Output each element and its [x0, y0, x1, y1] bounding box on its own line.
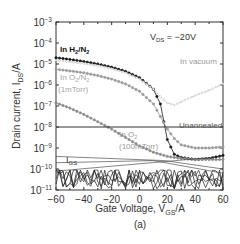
- data-point: [90, 73, 92, 75]
- data-point: [149, 86, 151, 88]
- data-point: [177, 141, 179, 143]
- data-point: [65, 58, 67, 60]
- data-point: [187, 158, 189, 160]
- data-point: [208, 158, 210, 160]
- data-point: [163, 99, 165, 101]
- data-point: [69, 70, 71, 72]
- data-point: [163, 122, 165, 124]
- x-tick-label: 60: [217, 194, 229, 205]
- data-point: [93, 64, 95, 66]
- data-point: [163, 154, 165, 156]
- data-point: [184, 99, 186, 101]
- data-point: [83, 60, 85, 62]
- data-point: [215, 146, 217, 148]
- data-point: [222, 146, 224, 148]
- data-point: [173, 153, 175, 155]
- data-point: [55, 59, 57, 61]
- data-point: [97, 121, 99, 123]
- series-line: [56, 103, 223, 160]
- data-point: [55, 102, 57, 104]
- y-tick-label: 10−3: [33, 16, 52, 28]
- data-point: [194, 147, 196, 149]
- data-point: [58, 68, 60, 70]
- data-point: [125, 72, 127, 74]
- data-point: [76, 62, 78, 64]
- data-point: [198, 93, 200, 95]
- data-point: [83, 113, 85, 115]
- data-point: [104, 124, 106, 126]
- data-point: [128, 85, 130, 87]
- data-point: [58, 57, 60, 59]
- data-point: [135, 88, 137, 90]
- data-point: [107, 77, 109, 79]
- data-point: [208, 147, 210, 149]
- data-point: [145, 96, 147, 98]
- y-axis: 10−310−410−510−610−710−810−910−1010−11: [30, 16, 223, 196]
- data-point: [138, 90, 140, 92]
- data-point: [211, 158, 213, 160]
- panel-label: (a): [134, 219, 146, 230]
- data-point: [180, 157, 182, 159]
- y-tick-label: 10−10: [30, 163, 53, 175]
- data-point: [107, 67, 109, 69]
- data-point: [211, 147, 213, 149]
- data-point: [152, 103, 154, 105]
- o2n2-pressure-label: (1mTorr): [58, 85, 89, 94]
- data-point: [149, 100, 151, 102]
- data-point: [156, 152, 158, 154]
- data-point: [132, 75, 134, 77]
- data-point: [110, 78, 112, 80]
- chart: 10−310−410−510−610−710−810−910−1010−11 −…: [0, 0, 240, 244]
- o2-label: In O2: [119, 130, 137, 140]
- data-point: [197, 147, 199, 149]
- h2n2-label: In H2/N2: [60, 45, 89, 55]
- data-point: [72, 108, 74, 110]
- data-point: [72, 59, 74, 61]
- data-point: [66, 61, 68, 63]
- data-point: [215, 158, 217, 160]
- vds-label: VDS = −20V: [150, 32, 196, 43]
- data-point: [69, 61, 71, 63]
- data-point: [121, 82, 123, 84]
- data-point: [177, 157, 179, 159]
- data-point: [201, 158, 203, 160]
- data-point: [79, 62, 81, 64]
- y-tick-label: 10−4: [33, 37, 52, 49]
- data-point: [117, 80, 119, 82]
- y-tick-label: 10−9: [33, 142, 52, 154]
- data-point: [170, 156, 172, 158]
- data-point: [65, 69, 67, 71]
- data-point: [184, 144, 186, 146]
- data-point: [69, 58, 71, 60]
- data-point: [194, 95, 196, 97]
- data-point: [139, 78, 141, 80]
- data-point: [90, 117, 92, 119]
- y-tick-label: 10−7: [33, 100, 52, 112]
- data-point: [159, 153, 161, 155]
- data-point: [218, 158, 220, 160]
- y-tick-label: 10−5: [33, 58, 52, 70]
- data-point: [55, 57, 57, 59]
- data-point: [219, 85, 221, 87]
- data-point: [204, 158, 206, 160]
- data-point: [62, 60, 64, 62]
- data-point: [180, 101, 182, 103]
- data-point: [86, 72, 88, 74]
- data-point: [131, 86, 133, 88]
- data-point: [177, 102, 179, 104]
- data-point: [191, 96, 193, 98]
- data-point: [62, 104, 64, 106]
- y-axis-title: Drain current, IDS/A: [11, 63, 24, 149]
- data-point: [69, 107, 71, 109]
- o2n2-label: In O2/N2: [60, 73, 89, 83]
- data-point: [111, 68, 113, 70]
- data-point: [180, 144, 182, 146]
- unannealed-label: Unannealed: [179, 121, 222, 130]
- data-point: [97, 74, 99, 76]
- data-point: [166, 155, 168, 157]
- data-point: [114, 69, 116, 71]
- data-point: [204, 147, 206, 149]
- data-point: [90, 64, 92, 66]
- data-point: [166, 102, 168, 104]
- data-point: [79, 60, 81, 62]
